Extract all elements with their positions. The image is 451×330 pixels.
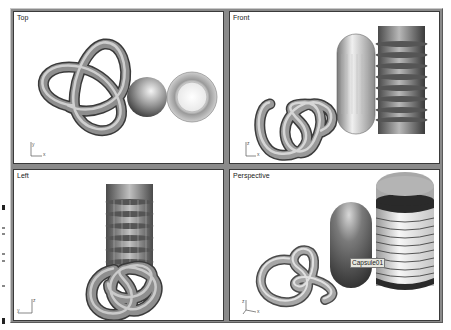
- viewport-left[interactable]: Left z y: [13, 169, 224, 321]
- viewport-label-perspective[interactable]: Perspective: [233, 172, 270, 179]
- svg-text:x: x: [257, 308, 260, 314]
- viewport-label-top[interactable]: Top: [17, 14, 28, 21]
- object-tooltip: Capsule01: [350, 258, 385, 268]
- svg-text:y: y: [32, 141, 35, 147]
- axis-tripod-icon: y x: [28, 140, 48, 160]
- viewport-top[interactable]: Top y x: [13, 11, 224, 164]
- axis-tripod-icon: z x: [240, 296, 264, 318]
- left-view-scene: [14, 170, 224, 321]
- viewport-label-left[interactable]: Left: [17, 172, 29, 179]
- viewport-front[interactable]: Front z x: [229, 11, 440, 164]
- svg-text:y: y: [17, 307, 20, 313]
- axis-tripod-icon: z y: [16, 295, 42, 317]
- axis-tripod-icon: z x: [242, 138, 264, 160]
- svg-text:z: z: [247, 140, 250, 146]
- svg-text:z: z: [242, 298, 245, 304]
- capsule-top-sphere: [127, 77, 167, 117]
- svg-text:x: x: [257, 151, 260, 157]
- svg-text:z: z: [33, 297, 36, 303]
- page-edge-marks: [0, 200, 8, 330]
- svg-text:x: x: [43, 151, 46, 157]
- viewport-label-front[interactable]: Front: [233, 14, 249, 21]
- viewport-perspective[interactable]: Perspective Capsule01 z x: [229, 169, 440, 321]
